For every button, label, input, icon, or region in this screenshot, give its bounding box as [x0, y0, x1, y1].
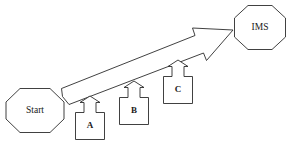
node-start[interactable]: Start: [6, 89, 64, 133]
step-c-shape: [164, 60, 193, 104]
main-arrow[interactable]: [62, 28, 234, 105]
node-ims[interactable]: IMS: [235, 6, 286, 50]
diagram-canvas: Start IMS A B C: [0, 0, 292, 146]
main-arrow-body: [62, 28, 234, 105]
step-b-shape: [120, 81, 149, 125]
step-b[interactable]: B: [120, 81, 149, 125]
step-a[interactable]: A: [76, 96, 105, 140]
ims-label: IMS: [252, 22, 269, 32]
step-a-label: A: [87, 120, 94, 130]
start-label: Start: [26, 105, 44, 115]
step-b-label: B: [131, 105, 137, 115]
step-a-shape: [76, 96, 105, 140]
step-c-label: C: [175, 84, 182, 94]
step-c[interactable]: C: [164, 60, 193, 104]
diagram-svg: Start IMS A B C: [0, 0, 292, 146]
